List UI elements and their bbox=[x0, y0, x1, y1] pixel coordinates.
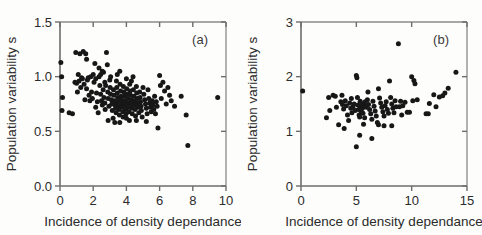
data-point bbox=[378, 100, 383, 105]
x-tick-label: 8 bbox=[189, 193, 196, 208]
data-point bbox=[365, 89, 370, 94]
data-point bbox=[453, 70, 458, 75]
data-point bbox=[103, 107, 108, 112]
data-point bbox=[139, 104, 144, 109]
data-point bbox=[165, 85, 170, 90]
panel-a: 02468100.00.51.01.5Incidence of density … bbox=[0, 0, 241, 235]
data-point bbox=[370, 99, 375, 104]
data-point bbox=[326, 95, 331, 100]
data-point bbox=[80, 76, 85, 81]
panel-b: 0510150123Incidence of density dependanc… bbox=[241, 0, 482, 235]
data-point bbox=[76, 72, 81, 77]
data-point bbox=[155, 126, 160, 131]
data-point bbox=[357, 115, 362, 120]
data-point bbox=[362, 115, 367, 120]
data-point bbox=[380, 109, 385, 114]
data-point bbox=[342, 126, 347, 131]
data-point bbox=[83, 51, 88, 56]
data-point bbox=[98, 72, 103, 77]
data-point bbox=[336, 122, 341, 127]
data-point bbox=[300, 88, 305, 93]
data-point bbox=[82, 97, 87, 102]
scatter-plot-b: 0510150123Incidence of density dependanc… bbox=[241, 0, 482, 235]
data-point bbox=[354, 75, 359, 80]
y-tick-label: 1 bbox=[286, 124, 293, 139]
data-point bbox=[155, 104, 160, 109]
data-point bbox=[60, 95, 65, 100]
y-tick-label: 2 bbox=[286, 69, 293, 84]
data-point bbox=[415, 97, 420, 102]
data-point bbox=[446, 86, 451, 91]
data-point bbox=[141, 85, 146, 90]
data-point bbox=[84, 86, 89, 91]
data-point bbox=[145, 87, 150, 92]
y-tick-label: 1.0 bbox=[34, 69, 52, 84]
data-point bbox=[327, 108, 332, 113]
data-point bbox=[388, 95, 393, 100]
data-point bbox=[324, 115, 329, 120]
data-point bbox=[412, 81, 417, 86]
data-point bbox=[387, 79, 392, 84]
data-point bbox=[407, 110, 412, 115]
data-point bbox=[382, 123, 387, 128]
data-point bbox=[372, 104, 377, 109]
data-point bbox=[427, 101, 432, 106]
data-point bbox=[393, 98, 398, 103]
x-tick-label: 2 bbox=[90, 193, 97, 208]
x-axis-title: Incidence of density dependance bbox=[44, 214, 241, 229]
data-point bbox=[91, 72, 96, 77]
data-point bbox=[112, 120, 117, 125]
y-axis-title: Population variability s bbox=[4, 37, 19, 172]
data-point bbox=[410, 98, 415, 103]
data-point bbox=[134, 118, 139, 123]
y-tick-label: 0.5 bbox=[34, 124, 52, 139]
data-point bbox=[90, 96, 95, 101]
data-point bbox=[104, 50, 109, 55]
data-point bbox=[93, 105, 98, 110]
data-point bbox=[357, 133, 362, 138]
data-point bbox=[115, 72, 120, 77]
data-point bbox=[347, 100, 352, 105]
data-point bbox=[349, 96, 354, 101]
data-point bbox=[97, 83, 102, 88]
data-point bbox=[179, 94, 184, 99]
data-point bbox=[92, 61, 97, 66]
scatter-plot-a: 02468100.00.51.01.5Incidence of density … bbox=[0, 0, 241, 235]
data-point bbox=[384, 99, 389, 104]
data-point bbox=[96, 110, 101, 115]
data-point bbox=[101, 87, 106, 92]
data-point bbox=[70, 111, 75, 116]
x-tick-label: 15 bbox=[460, 193, 474, 208]
data-point bbox=[333, 94, 338, 99]
data-point bbox=[102, 100, 107, 105]
data-point bbox=[442, 91, 447, 96]
data-point bbox=[58, 60, 63, 65]
data-point bbox=[391, 110, 396, 115]
data-point bbox=[373, 109, 378, 114]
data-point bbox=[153, 111, 158, 116]
data-point bbox=[365, 97, 370, 102]
data-point bbox=[154, 99, 159, 104]
data-point bbox=[368, 111, 373, 116]
x-axis-title: Incidence of density dependance bbox=[285, 214, 482, 229]
data-point bbox=[131, 74, 136, 79]
data-point bbox=[399, 112, 404, 117]
data-point bbox=[369, 136, 374, 141]
data-point bbox=[185, 143, 190, 148]
data-point bbox=[354, 144, 359, 149]
data-point bbox=[215, 95, 220, 100]
x-tick-label: 5 bbox=[353, 193, 360, 208]
data-points-group bbox=[58, 49, 220, 148]
data-point bbox=[89, 89, 94, 94]
data-point bbox=[376, 122, 381, 127]
y-tick-label: 1.5 bbox=[34, 15, 52, 30]
data-point bbox=[184, 112, 189, 117]
data-point bbox=[367, 107, 372, 112]
data-point bbox=[339, 93, 344, 98]
data-point bbox=[117, 120, 122, 125]
data-point bbox=[93, 76, 98, 81]
data-point bbox=[72, 80, 77, 85]
x-tick-label: 0 bbox=[56, 193, 63, 208]
data-point bbox=[124, 116, 129, 121]
data-point bbox=[78, 85, 83, 90]
